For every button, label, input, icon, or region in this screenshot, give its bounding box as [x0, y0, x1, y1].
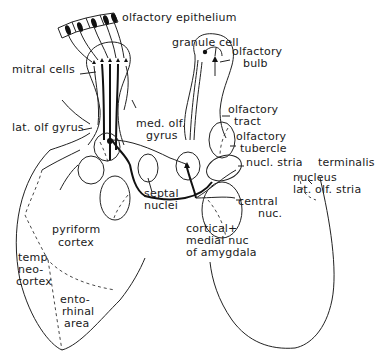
label-nucleus-lat-olf-stria-line2: lat. olf. stria — [293, 184, 361, 195]
label-cortical-medial-line1: cortical+ — [186, 223, 238, 234]
label-pyriform-cortex-line2: cortex — [58, 237, 94, 248]
olfactory-epithelium-drawing — [58, 12, 124, 62]
label-temp-neocortex-line2: neo- — [18, 264, 43, 275]
label-olfactory-tract-line2: tract — [234, 116, 261, 127]
label-nucl-stria: nucl. stria — [246, 157, 303, 168]
label-central-nuc-line1: central — [238, 196, 278, 207]
label-terminalis: terminalis — [318, 157, 375, 168]
label-lat-olf-gyrus: lat. olf gyrus — [12, 122, 84, 133]
label-septal-nuclei-line1: septal — [144, 188, 179, 199]
right-bulb-outline — [185, 34, 234, 140]
label-temp-neocortex-line1: temp — [18, 252, 48, 263]
label-central-nuc-line2: nuc. — [258, 208, 282, 219]
label-olfactory-tract-line1: olfactory — [228, 104, 278, 115]
label-cortical-medial-line3: of amygdala — [186, 247, 257, 258]
label-entorhinal-line1: ento- — [60, 294, 90, 305]
label-olfactory-epithelium: olfactory epithelium — [122, 12, 237, 23]
label-olfactory-tubercle-line1: olfactory — [236, 131, 286, 142]
label-septal-nuclei-line2: nuclei — [144, 200, 178, 211]
label-med-olf-gyrus-line1: med. olf. — [136, 118, 186, 129]
label-nucleus-lat-olf-stria-line1: nucleus — [293, 172, 337, 183]
label-mitral-cells: mitral cells — [12, 64, 75, 75]
label-granule-cell: granule cell — [172, 37, 239, 48]
label-olfactory-bulb-line2: bulb — [243, 58, 268, 69]
label-cortical-medial-line2: medial nuc — [186, 235, 249, 246]
label-pyriform-cortex-line1: pyriform — [52, 224, 100, 235]
olfactory-pathway-diagram: olfactory epithelium granule cell olfact… — [0, 0, 386, 361]
label-entorhinal-line2: rhinal — [62, 306, 94, 317]
label-olfactory-bulb-line1: olfactory — [232, 46, 282, 57]
label-med-olf-gyrus-line2: gyrus — [146, 130, 178, 141]
label-entorhinal-line3: area — [64, 318, 89, 329]
label-temp-neocortex-line3: cortex — [16, 276, 52, 287]
label-olfactory-tubercle-line2: tubercle — [240, 143, 287, 154]
